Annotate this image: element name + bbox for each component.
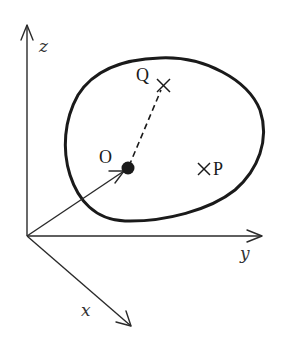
y-axis-label: y <box>239 243 250 263</box>
region-boundary <box>65 58 263 221</box>
position-vector-O <box>27 171 124 236</box>
point-O-dot-icon <box>122 162 135 175</box>
point-P-label: P <box>213 159 223 179</box>
point-O-label: O <box>99 147 112 167</box>
x-axis-label: x <box>81 300 91 320</box>
dashed-line-O-Q <box>129 90 161 166</box>
coordinate-diagram: z y x O Q P <box>0 0 283 344</box>
point-P-cross-icon <box>198 163 210 175</box>
z-axis-label: z <box>38 36 49 56</box>
point-Q-cross-icon <box>157 79 170 92</box>
x-axis: x <box>27 236 131 326</box>
point-P: P <box>198 159 223 179</box>
point-Q-label: Q <box>136 65 149 85</box>
y-axis: y <box>27 230 262 263</box>
point-Q: Q <box>136 65 170 92</box>
z-axis: z <box>21 25 49 236</box>
